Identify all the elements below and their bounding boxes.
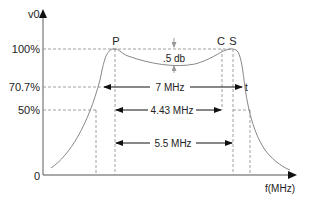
point-t-label: t [245,82,248,93]
point-p-label: P [112,35,119,47]
point-c-label: C [217,35,225,47]
point-s-label: S [229,35,236,47]
bw-5-5mhz-label: 5.5 MHz [154,138,191,149]
tick-70-7: 70.7% [9,81,40,93]
bw-4-43mhz-label: 4.43 MHz [151,105,194,116]
guide-lines [43,49,250,175]
y-axis-label: v0 [28,8,40,20]
ripple-label: .5 db [163,53,186,64]
x-axis-label: f(MHz) [265,183,295,194]
tick-0: 0 [34,170,40,182]
x-axis-arrow-icon [288,171,297,179]
tick-50: 50% [18,104,40,116]
tick-100: 100% [12,43,40,55]
y-axis-arrow-icon [39,9,47,18]
bw-7mhz-label: 7 MHz [156,82,185,93]
axes [39,9,297,179]
response-curve-diagram: v0 100% 70.7% 50% 0 f(MHz) P C S t .5 db… [0,0,325,203]
